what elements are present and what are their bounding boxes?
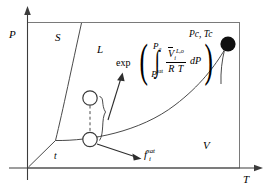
fugacity-arrow-shaft [97,144,136,157]
partial-molar-volume-symbol: V [168,48,174,59]
integral-core: P2 ∫ Psat ViL,o R T dP [151,42,201,79]
fugacity-arrow-head [132,153,141,160]
critical-point-marker [220,36,235,51]
numerator-superscript: L,o [176,47,184,54]
region-label-liquid: L [97,44,103,55]
y-axis [24,6,31,180]
differential-dP: dP [190,55,201,66]
close-paren: ) [205,44,213,77]
poynting-brace [100,97,106,141]
compressed-state-marker [83,91,97,105]
x-axis [9,165,263,171]
open-paren: ( [139,44,147,77]
numerator-subscript: i [174,54,176,61]
diagram-canvas [0,0,268,193]
exp-arrow-shaft [108,78,121,120]
region-label-solid: S [55,32,61,43]
x-axis-arrowhead [254,165,263,171]
phase-diagram-figure: P T S L V Pc, Tc t exp fsati ( P2 ∫ Psat… [0,0,268,193]
x-axis-label: T [243,174,249,185]
integral-with-limits: P2 ∫ Psat [151,42,163,79]
region-label-vapor: V [203,140,210,151]
fugacity-subscript: i [149,155,151,162]
triple-point-label: t [54,152,57,162]
poynting-integral-expression: ( P2 ∫ Psat ViL,o R T dP ) [136,42,216,79]
y-axis-label: P [9,29,16,40]
integral-sign: ∫ [155,52,160,70]
fraction-denominator: R T [166,63,186,74]
exp-label: exp [116,58,130,68]
exp-arrow-head [117,73,125,82]
sublimation-curve [29,141,56,168]
molar-volume-fraction: ViL,o R T [166,48,186,74]
fugacity-superscript: sat [147,147,155,154]
fraction-numerator: ViL,o [166,48,186,62]
fugacity-pointer-arrow [97,144,142,161]
fugacity-label: fsati [144,148,151,163]
saturated-state-marker [83,132,97,146]
y-axis-arrowhead [24,6,31,15]
exp-pointer-arrow [108,73,125,121]
